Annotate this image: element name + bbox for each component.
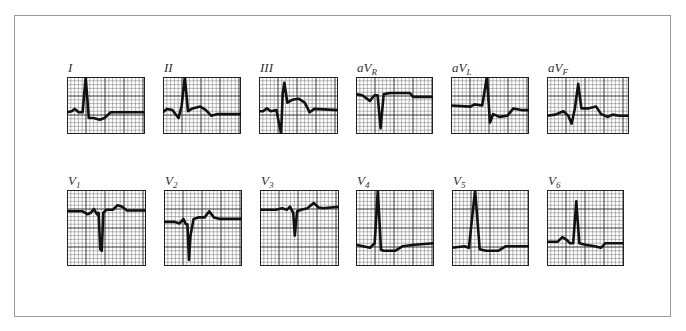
lead-label-text: aV xyxy=(548,60,562,75)
grid-background xyxy=(67,77,145,134)
lead-label-subscript: 6 xyxy=(556,180,561,190)
lead-label-text: III xyxy=(260,60,273,75)
ecg-panel-avr xyxy=(356,77,433,134)
lead-label-subscript: 3 xyxy=(269,180,274,190)
figure-frame xyxy=(14,15,671,317)
lead-label-i: I xyxy=(68,61,72,74)
ecg-panel-v5 xyxy=(452,190,529,266)
lead-label-subscript: L xyxy=(466,67,471,77)
lead-label-v3: V3 xyxy=(261,174,273,190)
lead-label-text: I xyxy=(68,60,72,75)
lead-label-text: V xyxy=(261,173,269,188)
lead-label-v1: V1 xyxy=(68,174,80,190)
ecg-panel-v3 xyxy=(260,190,339,266)
lead-label-text: V xyxy=(453,173,461,188)
lead-label-text: V xyxy=(165,173,173,188)
lead-label-v5: V5 xyxy=(453,174,465,190)
ecg-panel-v4 xyxy=(356,190,434,266)
ecg-panel-avf xyxy=(547,77,629,134)
lead-label-v4: V4 xyxy=(357,174,369,190)
lead-label-subscript: R xyxy=(371,67,377,77)
ecg-panel-v2 xyxy=(164,190,242,266)
lead-label-subscript: 5 xyxy=(461,180,466,190)
lead-label-subscript: 2 xyxy=(173,180,178,190)
lead-label-text: V xyxy=(357,173,365,188)
ecg-panel-iii xyxy=(259,77,338,134)
grid-background xyxy=(547,77,629,134)
lead-label-text: aV xyxy=(452,60,466,75)
lead-label-text: II xyxy=(164,60,173,75)
lead-label-subscript: F xyxy=(562,67,568,77)
lead-label-text: V xyxy=(548,173,556,188)
lead-label-v6: V6 xyxy=(548,174,560,190)
ecg-panel-avl xyxy=(451,77,529,134)
lead-label-text: aV xyxy=(357,60,371,75)
lead-label-text: V xyxy=(68,173,76,188)
lead-label-avf: aVF xyxy=(548,61,568,77)
grid-background xyxy=(259,77,338,134)
ecg-panel-v6 xyxy=(547,190,624,266)
lead-label-v2: V2 xyxy=(165,174,177,190)
lead-label-avl: aVL xyxy=(452,61,471,77)
ecg-panel-v1 xyxy=(67,190,146,266)
lead-label-subscript: 4 xyxy=(365,180,370,190)
lead-label-ii: II xyxy=(164,61,173,74)
lead-label-avr: aVR xyxy=(357,61,377,77)
lead-label-subscript: 1 xyxy=(76,180,81,190)
ecg-panel-ii xyxy=(163,77,241,134)
lead-label-iii: III xyxy=(260,61,273,74)
grid-background xyxy=(163,77,241,134)
ecg-panel-i xyxy=(67,77,145,134)
